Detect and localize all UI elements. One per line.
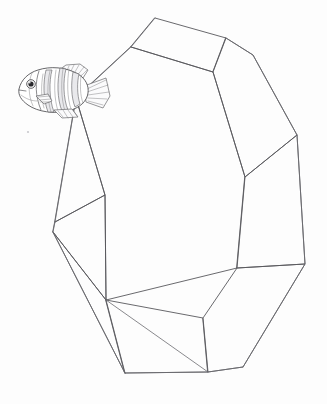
fish-eye-highlight xyxy=(29,82,31,84)
drawing-canvas: Fish and faceted polyhedron line drawing xyxy=(0,0,327,404)
line-drawing xyxy=(0,0,327,404)
fish-eye-pupil xyxy=(28,81,33,86)
paper-background xyxy=(0,0,327,404)
paper-speck xyxy=(27,131,29,133)
